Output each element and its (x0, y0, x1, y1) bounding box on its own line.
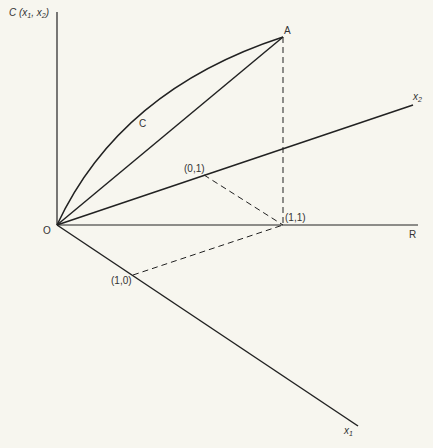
point-10-label: (1,0) (111, 275, 132, 286)
r-axis-label: R (409, 229, 416, 240)
x2-axis-label: x2 (412, 91, 422, 103)
point-01-label: (0,1) (184, 163, 205, 174)
origin-label: O (43, 225, 51, 236)
cost-axis-label: C (x1, x2) (9, 7, 49, 19)
dashed-10-to-11 (133, 225, 283, 275)
x1-axis (57, 225, 358, 426)
point-11-label: (1,1) (285, 212, 306, 223)
x2-axis (57, 105, 413, 225)
line-oa (57, 37, 283, 225)
diagram-canvas: C (x1, x2) O A C R (1,1) (0,1) (1,0) x1 … (0, 0, 433, 448)
x1-axis-label: x1 (343, 425, 353, 437)
dashed-01-to-11 (204, 175, 283, 225)
curve-c-label: C (139, 118, 146, 129)
point-a-label: A (284, 25, 291, 36)
